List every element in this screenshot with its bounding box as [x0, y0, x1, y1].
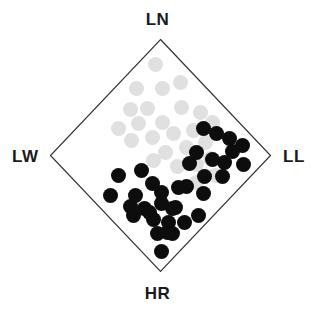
scatter-point — [173, 75, 188, 90]
scatter-point — [197, 169, 212, 184]
scatter-point — [165, 201, 180, 216]
scatter-point — [146, 153, 161, 168]
diamond-scatter-plot: LN HR LW LL — [0, 0, 315, 314]
scatter-point — [111, 121, 126, 136]
scatter-point — [191, 208, 206, 223]
scatter-point — [123, 102, 138, 117]
scatter-point — [193, 105, 208, 120]
scatter-point — [124, 133, 139, 148]
scatter-point — [148, 57, 163, 72]
scatter-point — [215, 169, 230, 184]
scatter-point — [142, 205, 157, 220]
axis-label-lw: LW — [12, 148, 39, 165]
scatter-point — [131, 116, 146, 131]
scatter-point — [123, 199, 138, 214]
scatter-point — [225, 144, 240, 159]
scatter-point — [196, 186, 211, 201]
scatter-point — [134, 163, 149, 178]
scatter-point — [154, 244, 169, 259]
scatter-point — [145, 130, 160, 145]
scatter-point — [177, 215, 192, 230]
axis-label-ll: LL — [283, 148, 305, 165]
scatter-point — [182, 156, 197, 171]
scatter-point — [111, 168, 126, 183]
axis-label-hr: HR — [0, 285, 315, 302]
scatter-point — [236, 157, 251, 172]
axis-label-ln: LN — [0, 11, 315, 28]
scatter-point — [129, 81, 144, 96]
scatter-point — [140, 101, 155, 116]
scatter-point — [155, 81, 170, 96]
scatter-point — [171, 180, 186, 195]
scatter-point — [166, 126, 181, 141]
scatter-point — [160, 225, 175, 240]
scatter-point — [174, 100, 189, 115]
scatter-point — [103, 188, 118, 203]
